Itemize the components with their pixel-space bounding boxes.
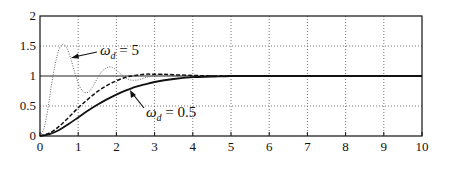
curves (40, 44, 422, 136)
x-tick-label: 3 (151, 139, 158, 154)
y-tick-label: 2 (30, 8, 37, 23)
y-tick-label: 0.5 (20, 98, 36, 113)
step-response-chart: 012345678910 00.511.52 ωd = 5 ωd = 0.5 (0, 0, 451, 177)
curve-dotted (40, 44, 422, 136)
x-axis-ticks: 012345678910 (37, 132, 429, 154)
x-tick-label: 2 (113, 139, 120, 154)
y-tick-label: 1 (30, 68, 37, 83)
annotation-omega-d-5: ωd = 5 (71, 42, 139, 61)
x-tick-label: 10 (416, 139, 429, 154)
x-tick-label: 0 (37, 139, 44, 154)
x-tick-label: 7 (304, 139, 311, 154)
y-tick-label: 1.5 (20, 38, 36, 53)
label-omega-d-5: ωd = 5 (100, 42, 139, 61)
y-tick-label: 0 (30, 128, 37, 143)
label-omega-d-0-5: ωd = 0.5 (146, 104, 196, 123)
x-tick-label: 9 (381, 139, 388, 154)
x-tick-label: 1 (75, 139, 82, 154)
x-tick-label: 6 (266, 139, 273, 154)
x-tick-label: 5 (228, 139, 235, 154)
x-tick-label: 8 (342, 139, 349, 154)
arrow-head-icon (71, 54, 79, 59)
x-tick-label: 4 (190, 139, 197, 154)
y-axis-ticks: 00.511.52 (20, 8, 36, 143)
annotation-omega-d-0-5: ωd = 0.5 (130, 90, 196, 123)
